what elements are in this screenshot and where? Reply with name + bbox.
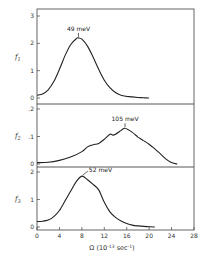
x-tick-label: 12: [100, 232, 108, 239]
y-tick-label: 0: [30, 223, 34, 230]
panel-y-label: f2: [14, 132, 21, 141]
series-curve-3: [37, 176, 155, 227]
series-curve-1: [37, 38, 149, 98]
panel-y-label: f1: [14, 53, 21, 62]
y-tick-label: 0: [30, 94, 34, 101]
x-tick-label: 20: [145, 232, 153, 239]
peak-annotation: 49 meV: [67, 25, 91, 32]
x-axis-label: Ω (10-13 sec-1): [89, 244, 134, 253]
x-tick-label: 8: [80, 232, 84, 239]
y-tick-label: 0: [30, 160, 34, 167]
y-tick-label: 3: [30, 12, 34, 19]
y-tick-label: 1: [30, 67, 34, 74]
y-tick-label: .2: [28, 105, 34, 112]
series-curve-2: [37, 128, 177, 164]
y-tick-label: .1: [28, 133, 34, 140]
x-tick-label: 24: [168, 232, 176, 239]
y-tick-label: 2: [30, 168, 34, 175]
peak-annotation: 105 meV: [112, 115, 140, 122]
x-tick-label: 28: [190, 232, 198, 239]
x-tick-label: 0: [35, 232, 39, 239]
x-tick-label: 16: [123, 232, 131, 239]
y-tick-label: 1: [30, 196, 34, 203]
x-tick-label: 4: [58, 232, 62, 239]
y-tick-label: 2: [30, 39, 34, 46]
annotation-pointer: [83, 171, 88, 175]
panel-y-label: f3: [14, 195, 21, 204]
stacked-line-chart: 0123f149 meV0.1.2f2105 meV012f352 meV048…: [0, 0, 214, 260]
peak-annotation: 52 meV: [89, 166, 113, 173]
